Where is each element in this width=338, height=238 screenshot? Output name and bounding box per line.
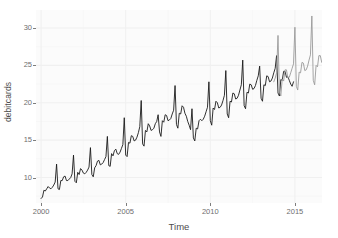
y-tick-label-25: 25: [12, 62, 32, 70]
y-tick-label-15: 15: [12, 136, 32, 144]
x-tick-label-2010: 2010: [202, 208, 219, 216]
plot-panel-svg: [36, 10, 322, 203]
x-tick-label-2000: 2000: [33, 208, 50, 216]
y-axis-tick-labels: 1015202530: [12, 0, 32, 238]
y-tick-label-10: 10: [12, 174, 32, 182]
x-tick-mark: [210, 203, 211, 206]
x-tick-mark: [41, 203, 42, 206]
chart-container: debitcards 1015202530 2000200520102015 T…: [0, 0, 338, 238]
y-tick-label-30: 30: [12, 24, 32, 32]
y-tick-label-20: 20: [12, 99, 32, 107]
x-tick-mark: [126, 203, 127, 206]
x-tick-label-2005: 2005: [117, 208, 134, 216]
plot-panel: [36, 10, 322, 203]
x-axis-title: Time: [36, 221, 322, 232]
x-axis-title-text: Time: [169, 221, 190, 232]
x-tick-mark: [295, 203, 296, 206]
x-tick-label-2015: 2015: [287, 208, 304, 216]
